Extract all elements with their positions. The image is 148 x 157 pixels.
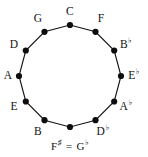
circle-of-fifths-diagram: CFB♭E♭A♭D♭F♯ = G♭BEADG — [0, 0, 148, 157]
note-letter: G — [34, 12, 43, 24]
note-label-D: D — [10, 39, 19, 51]
node-dot-Ab — [111, 98, 117, 104]
sharp-icon: ♯ — [58, 138, 62, 147]
note-label-C: C — [66, 6, 74, 18]
note-label-E: E — [10, 101, 17, 113]
node-dot-B — [41, 117, 47, 123]
note-letter: B — [34, 125, 42, 137]
note-letter: E — [128, 69, 135, 81]
node-dot-C — [67, 22, 73, 28]
flat-icon: ♭ — [136, 67, 140, 76]
equals-sign: = — [63, 140, 75, 152]
note-letter: A — [4, 69, 13, 81]
note-letter: D — [10, 38, 19, 50]
note-label-Bb: B♭ — [120, 39, 132, 51]
note-letter: D — [97, 125, 106, 137]
circle-edges — [19, 25, 121, 127]
note-letter: C — [66, 5, 74, 17]
note-label-Db: D♭ — [97, 126, 110, 138]
node-dot-Bb — [111, 47, 117, 53]
note-label-B: B — [34, 126, 42, 138]
node-dot-Fsharp-Gb — [67, 124, 73, 130]
note-letter: F — [51, 140, 57, 152]
node-dot-Eb — [118, 73, 124, 79]
node-dot-F — [92, 29, 98, 35]
node-dot-Db — [92, 117, 98, 123]
note-letter: F — [98, 12, 105, 24]
node-dot-group — [16, 22, 124, 130]
node-dot-D — [23, 47, 29, 53]
flat-icon: ♭ — [105, 123, 109, 132]
node-dot-G — [41, 29, 47, 35]
note-label-G: G — [34, 13, 43, 25]
note-letter-alt: G — [77, 140, 85, 152]
note-label-A: A — [4, 70, 13, 82]
note-label-Fsharp-Gb: F♯ = G♭ — [51, 141, 89, 152]
node-dot-A — [16, 73, 22, 79]
flat-icon: ♭ — [128, 36, 132, 45]
node-dot-E — [23, 98, 29, 104]
circle-polygon-svg — [0, 0, 148, 157]
flat-icon: ♭ — [128, 98, 132, 107]
note-letter: A — [120, 100, 129, 112]
flat-icon: ♭ — [85, 138, 89, 147]
note-label-F: F — [98, 13, 105, 25]
note-label-Eb: E♭ — [128, 70, 140, 82]
note-letter: B — [120, 38, 128, 50]
note-letter: E — [10, 100, 17, 112]
note-label-Ab: A♭ — [120, 101, 133, 113]
